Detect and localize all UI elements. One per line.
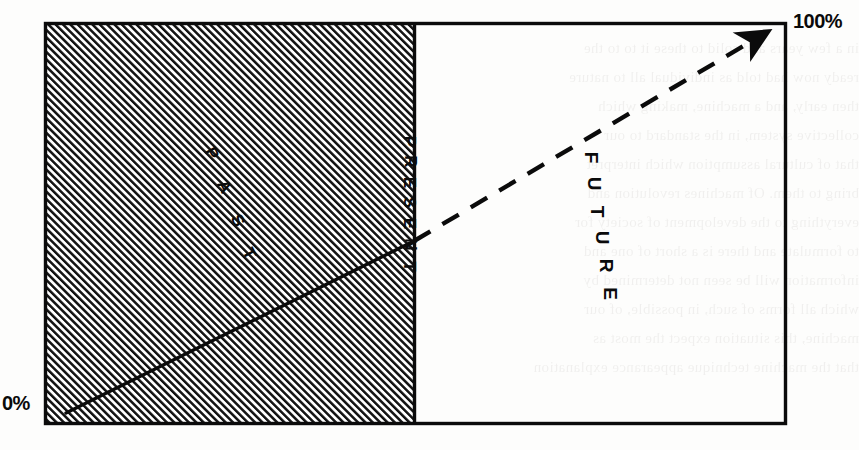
future-letter: F: [582, 152, 601, 164]
present-letter: E: [401, 218, 418, 229]
present-letter: E: [401, 177, 418, 188]
present-letter: P: [401, 136, 418, 147]
present-letter: N: [402, 238, 419, 250]
axis-label-hundred-percent: 100%: [793, 10, 842, 33]
future-letter: E: [601, 287, 620, 300]
future-letter: R: [597, 259, 616, 273]
present-letter: T: [401, 261, 418, 271]
future-letter: T: [588, 206, 607, 218]
diagram-graphic: [0, 0, 859, 450]
axis-label-zero-percent: 0%: [2, 392, 30, 415]
future-letter: U: [585, 177, 604, 191]
future-letter: U: [593, 231, 612, 245]
present-letter: R: [402, 155, 419, 167]
present-letter: S: [401, 197, 418, 208]
figure-canvas: in a few years and solid to these it to …: [0, 0, 859, 450]
